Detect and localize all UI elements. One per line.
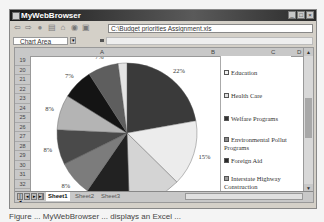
row-header[interactable]: 22: [15, 85, 30, 95]
legend-label: Health Care: [231, 92, 262, 99]
data-label: 22%: [173, 67, 186, 74]
prev-sheet-icon[interactable]: ◂: [24, 193, 30, 200]
data-label: 7%: [95, 57, 104, 60]
legend-label: Interstate Highway Construction: [224, 175, 281, 190]
row-header[interactable]: 31: [15, 170, 30, 180]
formula-marker-icon: [100, 39, 104, 42]
tab-sheet3[interactable]: Sheet3: [101, 192, 120, 201]
name-box[interactable]: Chart Area: [13, 37, 68, 45]
home-icon[interactable]: ⌂: [59, 24, 67, 32]
legend-label: Environmental Pollut Programs: [224, 136, 287, 151]
row-header[interactable]: 27: [15, 132, 30, 142]
stop-icon[interactable]: ●: [36, 24, 44, 32]
horizontal-scrollbar[interactable]: [185, 193, 303, 200]
last-sheet-icon[interactable]: ▸|: [38, 193, 44, 200]
spreadsheet: A B C D 19202122232425262728293031323334…: [14, 47, 314, 203]
back-icon[interactable]: ⇦: [13, 24, 21, 32]
data-label: 8%: [61, 182, 70, 189]
legend-entry[interactable]: Education: [224, 69, 290, 77]
legend-label: Education: [231, 69, 257, 76]
legend-entry[interactable]: Health Care: [224, 92, 290, 100]
tab-sheet2[interactable]: Sheet2: [75, 192, 94, 201]
name-box-dropdown[interactable]: ▾: [70, 37, 76, 44]
legend-swatch: [224, 116, 229, 121]
close-button[interactable]: ×: [306, 11, 314, 19]
browser-toolbar: ⇦ ⇨ ● ▤ ⌂ ◉ ▣ C:\Budget priorities Assig…: [10, 22, 316, 35]
row-header[interactable]: 21: [15, 75, 30, 85]
chart-legend[interactable]: EducationHealth CareWelfare ProgramsEnvi…: [220, 56, 291, 196]
legend-swatch: [224, 70, 229, 75]
sheet-tab-bar: |◂ ◂ ▸ ▸| Sheet1 Sheet2 Sheet3: [15, 191, 313, 202]
column-header-a[interactable]: A: [100, 48, 104, 56]
legend-swatch: [224, 137, 229, 142]
row-header[interactable]: 29: [15, 151, 30, 161]
maximize-button[interactable]: □: [297, 11, 305, 19]
scroll-up-icon[interactable]: ▲: [304, 48, 313, 56]
data-label: 7%: [65, 72, 74, 79]
app-icon: [12, 12, 20, 20]
refresh-icon[interactable]: ▤: [48, 24, 56, 32]
data-label: 15%: [198, 153, 211, 160]
column-header-c[interactable]: C: [271, 48, 275, 56]
column-header-b[interactable]: B: [211, 48, 215, 56]
row-headers: 1920212223242526272829303132333435: [15, 56, 31, 192]
vertical-scrollbar[interactable]: ▲ ▼: [303, 48, 313, 192]
next-sheet-icon[interactable]: ▸: [31, 193, 37, 200]
data-label: 8%: [43, 146, 52, 153]
formula-input[interactable]: [106, 37, 313, 45]
print-icon[interactable]: ▣: [82, 24, 90, 32]
window-title: MyWebBrowser: [21, 10, 81, 21]
first-sheet-icon[interactable]: |◂: [17, 193, 23, 200]
legend-entry[interactable]: Foreign Aid: [224, 157, 290, 165]
figure-caption: Figure ... MyWebBrowser ... displays an …: [9, 212, 181, 221]
row-header[interactable]: 32: [15, 180, 30, 190]
row-header[interactable]: 30: [15, 161, 30, 171]
legend-swatch: [224, 93, 229, 98]
row-header[interactable]: 28: [15, 142, 30, 152]
minimize-button[interactable]: _: [288, 11, 296, 19]
row-header[interactable]: 19: [15, 56, 30, 66]
legend-label: Welfare Programs: [231, 115, 278, 122]
row-header[interactable]: 25: [15, 113, 30, 123]
legend-entry[interactable]: Welfare Programs: [224, 115, 290, 123]
row-header[interactable]: 23: [15, 94, 30, 104]
row-header[interactable]: 24: [15, 104, 30, 114]
legend-label: Foreign Aid: [231, 157, 262, 164]
column-header-d[interactable]: D: [297, 48, 301, 56]
title-bar[interactable]: MyWebBrowser _ □ ×: [10, 10, 316, 21]
legend-swatch: [224, 176, 229, 181]
formula-bar: Chart Area ▾: [10, 36, 316, 46]
browser-window: MyWebBrowser _ □ × ⇦ ⇨ ● ▤ ⌂ ◉ ▣ C:\Budg…: [9, 9, 317, 209]
row-header[interactable]: 26: [15, 123, 30, 133]
forward-icon[interactable]: ⇨: [24, 24, 32, 32]
legend-entry[interactable]: Environmental Pollut Programs: [224, 136, 290, 152]
row-header[interactable]: 20: [15, 66, 30, 76]
legend-entry[interactable]: Interstate Highway Construction: [224, 175, 290, 191]
scroll-thumb[interactable]: [305, 98, 312, 138]
legend-swatch: [224, 158, 229, 163]
search-icon[interactable]: ◉: [70, 24, 78, 32]
tab-sheet1[interactable]: Sheet1: [46, 192, 70, 201]
data-label: 8%: [45, 105, 54, 112]
address-bar[interactable]: C:\Budget priorities Assignment.xls: [108, 24, 313, 33]
